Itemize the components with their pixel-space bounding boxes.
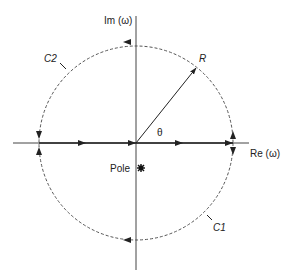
arrow-left-icon: [123, 39, 131, 45]
arrow-right-icon: [175, 140, 183, 146]
pole-marker-icon: [137, 164, 145, 172]
radius-label: R: [199, 53, 206, 64]
arrow-right-icon: [128, 140, 136, 146]
arrow-right-icon: [225, 140, 233, 146]
angle-label: θ: [157, 127, 163, 138]
arrow-right-icon: [78, 140, 86, 146]
arrow-down-icon: [230, 147, 236, 155]
contour-c2-label: C2: [44, 53, 57, 64]
contour-diagram: Im (ω) Re (ω) R θ Pole C2 C1: [0, 0, 291, 274]
c1-leader: [207, 215, 212, 220]
pole-label: Pole: [110, 163, 130, 174]
c2-leader: [60, 63, 66, 69]
imaginary-axis-label: Im (ω): [104, 15, 132, 26]
arrow-left-icon: [123, 237, 131, 243]
arrow-up-icon: [36, 147, 42, 155]
radius-arrow: [136, 68, 196, 143]
arrow-down-icon: [36, 131, 42, 139]
arrow-up-icon: [230, 131, 236, 139]
contour-c1-label: C1: [213, 222, 226, 233]
real-axis-label: Re (ω): [250, 148, 280, 159]
